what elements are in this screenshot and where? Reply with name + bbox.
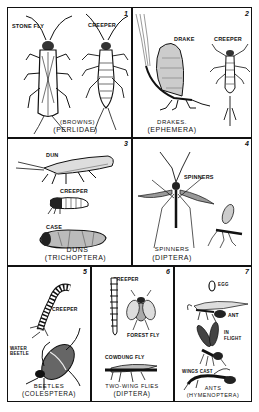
caption-line1: BEETLES (8, 382, 90, 390)
panel-beetles: 5 CREEPER WATER BEETLE BEETLES (COLESPTE… (8, 266, 90, 402)
caption-line2: (COLESPTERA) (8, 390, 90, 398)
panel-spinners: 4 SPINNERS SPINNERS (DIPTERA) (132, 138, 252, 265)
caption-line1: DRAKES. (112, 118, 232, 126)
panel-ants: 7 EGG ANT IN FLIGHT WINGS CAST ANTS (HYM… (174, 266, 252, 402)
caption-line1: SPINNERS (112, 245, 232, 253)
caption-line1: TWO-WING FLIES (91, 382, 173, 390)
panel-two-wing-flies: 6 CREEPER FOREST FLY COWDUNG FLY TWO-WIN… (91, 266, 173, 402)
caption-line2: (DIPTERA) (112, 254, 232, 262)
caption-line2: (DIPTERA) (91, 390, 173, 398)
caption-line2: (HYMENOPTERA) (174, 391, 252, 399)
caption-line2: (EPHEMERA) (112, 126, 232, 134)
ant-illustration (174, 266, 252, 402)
panel-drakes: 2 DRAKE CREEPER DRAKES. (EPHEMERA) (132, 8, 252, 137)
